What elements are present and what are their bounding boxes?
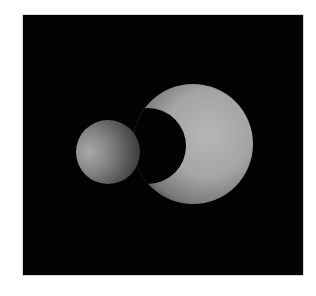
small-sphere: [76, 120, 140, 184]
sphere-scene: [0, 0, 316, 296]
